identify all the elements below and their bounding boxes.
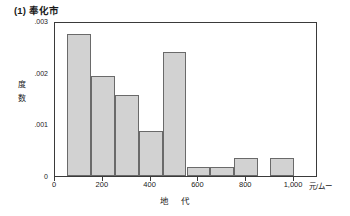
histogram-bar bbox=[139, 131, 163, 176]
x-axis-tick-mark bbox=[245, 177, 246, 181]
y-axis-title-char-1: 度 bbox=[16, 78, 28, 92]
x-axis-title: 地 代 bbox=[0, 194, 350, 206]
plot-area bbox=[54, 22, 317, 177]
histogram-bar bbox=[270, 158, 294, 176]
x-axis-tick-mark bbox=[102, 177, 103, 181]
histogram-bar bbox=[163, 52, 187, 176]
y-axis-tick-label: .002 bbox=[22, 70, 48, 77]
chart-title: (1) 奉化市 bbox=[14, 3, 60, 17]
x-axis-tick-mark bbox=[150, 177, 151, 181]
y-axis-tick-label: .001 bbox=[22, 121, 48, 128]
x-axis-unit: 元/ムー bbox=[309, 180, 332, 191]
histogram-bar bbox=[91, 76, 115, 176]
x-axis-tick-label: 600 bbox=[191, 180, 204, 189]
x-axis-tick-label: 800 bbox=[239, 180, 252, 189]
x-axis-tick-label: 0 bbox=[52, 180, 56, 189]
x-axis-tick-label: 200 bbox=[96, 180, 109, 189]
histogram-bar bbox=[210, 167, 234, 176]
x-axis-tick-mark bbox=[293, 177, 294, 181]
y-axis-title-char-2: 数 bbox=[16, 92, 28, 106]
histogram-bar bbox=[187, 167, 211, 176]
x-axis-tick-label: 400 bbox=[143, 180, 156, 189]
histogram-bar bbox=[67, 34, 91, 176]
x-axis-tick-label: 1,000 bbox=[284, 180, 303, 189]
y-axis-title: 度 数 bbox=[16, 78, 28, 106]
y-axis-tick-label: .003 bbox=[22, 18, 48, 25]
histogram-bar bbox=[234, 158, 258, 176]
x-axis-tick-mark bbox=[54, 177, 55, 181]
x-axis-tick-mark bbox=[197, 177, 198, 181]
histogram-bar bbox=[115, 95, 139, 176]
bars-container bbox=[55, 23, 316, 176]
histogram-figure: (1) 奉化市 度 数 0.001.002.003 02004006008001… bbox=[0, 0, 350, 216]
y-axis-tick-label: 0 bbox=[22, 173, 48, 180]
